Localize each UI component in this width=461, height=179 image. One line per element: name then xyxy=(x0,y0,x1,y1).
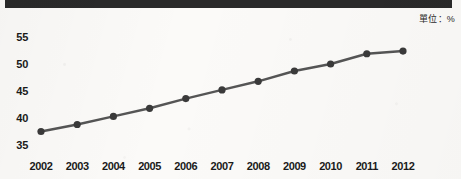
x-tick-label-2008: 2008 xyxy=(238,160,278,172)
x-tick-label-2007: 2007 xyxy=(202,160,242,172)
y-tick-label-35: 35 xyxy=(4,139,28,151)
x-tick-label-2006: 2006 xyxy=(166,160,206,172)
unit-label: 單位：% xyxy=(419,12,455,25)
y-tick-label-40: 40 xyxy=(4,112,28,124)
x-tick-label-2005: 2005 xyxy=(130,160,170,172)
data-point xyxy=(37,128,44,135)
plot-area xyxy=(0,0,461,179)
data-point xyxy=(110,113,117,120)
data-point xyxy=(399,47,406,54)
data-point xyxy=(255,78,262,85)
data-point xyxy=(146,105,153,112)
data-point xyxy=(182,95,189,102)
chart-page: 單位：% 3540455055 200220032004200520062007… xyxy=(0,0,461,179)
x-tick-label-2009: 2009 xyxy=(274,160,314,172)
data-point xyxy=(291,67,298,74)
y-tick-label-45: 45 xyxy=(4,85,28,97)
top-decorative-bar xyxy=(5,0,452,8)
x-tick-label-2003: 2003 xyxy=(57,160,97,172)
x-tick-label-2004: 2004 xyxy=(93,160,133,172)
x-tick-label-2011: 2011 xyxy=(347,160,387,172)
y-tick-label-50: 50 xyxy=(4,58,28,70)
data-point xyxy=(363,50,370,57)
data-point xyxy=(74,121,81,128)
line-chart-svg xyxy=(0,0,461,179)
x-tick-label-2002: 2002 xyxy=(21,160,61,172)
data-point xyxy=(327,60,334,67)
x-tick-label-2012: 2012 xyxy=(383,160,423,172)
y-tick-label-55: 55 xyxy=(4,31,28,43)
x-tick-label-2010: 2010 xyxy=(311,160,351,172)
data-point xyxy=(218,86,225,93)
